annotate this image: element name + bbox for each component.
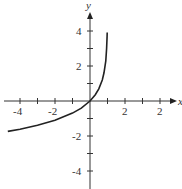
x-tick-label: 2 [157,105,163,117]
y-axis-label: y [85,0,91,11]
y-tick-label: -2 [72,130,81,142]
x-tick-label: 2 [122,105,128,117]
chart-canvas: y x -4 -2 2 2 4 2 -2 -4 [0,0,182,189]
x-axis-arrow-icon [170,98,177,104]
y-axis-arrow-icon [87,12,93,19]
x-tick-label: -2 [48,105,57,117]
y-tick-label: 2 [76,60,82,72]
x-axis-label: x [177,95,182,107]
function-curve [8,33,107,132]
y-tick-label: 4 [76,25,82,37]
x-tick-label: -4 [13,105,23,117]
y-tick-label: -4 [72,165,82,177]
